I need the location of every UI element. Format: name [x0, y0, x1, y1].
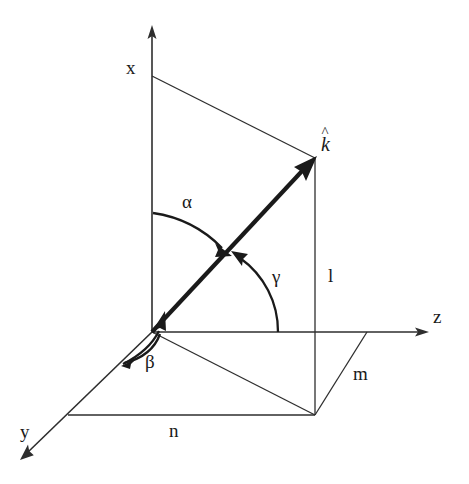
axis-label-y: y: [20, 422, 30, 441]
beta-arc-arrowhead: [153, 311, 166, 331]
k-hat-vector-line: [152, 170, 303, 332]
circumflex-accent-icon: ^: [322, 125, 329, 140]
diagram-canvas: [0, 0, 469, 484]
component-label-l: l: [328, 266, 333, 285]
y-axis-arrowhead: [20, 445, 34, 461]
component-label-m: m: [353, 364, 368, 383]
angle-label-gamma: γ: [272, 267, 280, 286]
yz-plane-projection-line: [152, 332, 315, 415]
y-axis-line: [27, 332, 152, 453]
component-label-n: n: [169, 421, 179, 440]
axis-label-z: z: [433, 307, 441, 326]
vector-label-k-hat: ^ k: [321, 134, 330, 154]
gamma-arc-arrowhead: [231, 251, 248, 266]
k-hat-glyph-wrap: ^ k: [321, 134, 330, 154]
vector-diagram-figure: x y z ^ k α β γ l m n: [0, 0, 469, 484]
angle-label-alpha: α: [182, 192, 192, 211]
angle-label-beta: β: [145, 352, 155, 371]
alpha-angle-arc: [153, 213, 222, 248]
top-projection-line: [152, 76, 315, 158]
axis-label-x: x: [126, 58, 136, 77]
